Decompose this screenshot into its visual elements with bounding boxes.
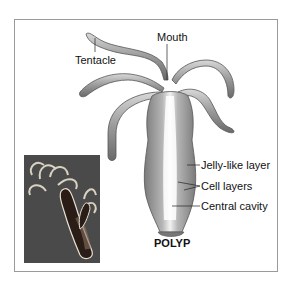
label-central-cavity: Central cavity <box>201 200 268 212</box>
label-tentacle: Tentacle <box>75 54 116 66</box>
label-cell-layers: Cell layers <box>201 180 252 192</box>
polyp-body <box>144 92 195 237</box>
hydra-photo-icon <box>24 155 100 263</box>
label-mouth: Mouth <box>157 31 188 43</box>
hydra-micrograph <box>24 155 100 263</box>
label-jelly-like-layer: Jelly-like layer <box>201 159 270 171</box>
caption-polyp: POLYP <box>154 237 190 249</box>
